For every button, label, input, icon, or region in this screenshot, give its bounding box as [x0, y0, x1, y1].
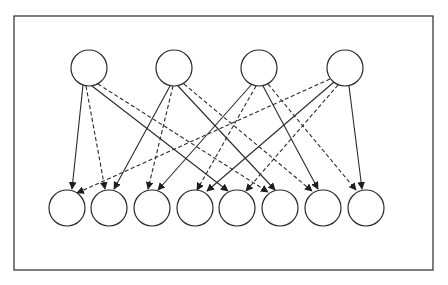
bottom-node-b7 [305, 190, 341, 226]
bottom-node-b4 [177, 190, 213, 226]
top-node-t1 [71, 50, 107, 86]
bottom-node-b1 [49, 190, 85, 226]
bottom-node-b6 [262, 190, 298, 226]
top-node-t3 [241, 50, 277, 86]
bottom-node-b2 [91, 190, 127, 226]
bottom-node-b5 [219, 190, 255, 226]
bottom-node-b3 [134, 190, 170, 226]
bottom-node-b8 [348, 190, 384, 226]
bipartite-graph-diagram [0, 0, 448, 285]
top-node-t4 [327, 50, 363, 86]
top-node-t2 [156, 50, 192, 86]
